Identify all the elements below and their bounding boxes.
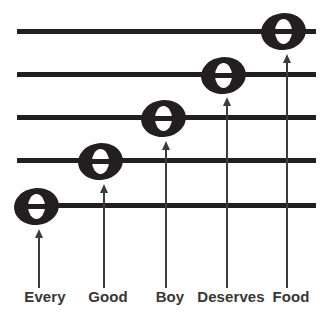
note-head-good: [78, 143, 123, 180]
note-line-overlay: [151, 116, 177, 121]
label-every: Every: [24, 288, 65, 305]
note-line-overlay: [88, 159, 114, 164]
note-line-overlay: [271, 29, 297, 34]
up-arrow-head-icon: [223, 97, 231, 106]
note-head-boy: [141, 100, 186, 137]
staff-line-2: [17, 72, 316, 77]
up-arrow-icon: [103, 192, 105, 288]
label-good: Good: [88, 288, 128, 305]
up-arrow-icon: [226, 105, 228, 288]
up-arrow-icon: [38, 237, 40, 288]
up-arrow-icon: [286, 62, 288, 288]
note-line-overlay: [211, 73, 237, 78]
staff-mnemonic-diagram: Every Good Boy Deserves Food: [0, 0, 331, 322]
note-head-every: [14, 188, 59, 225]
up-arrow-head-icon: [35, 229, 43, 238]
label-food: Food: [272, 288, 309, 305]
up-arrow-head-icon: [100, 184, 108, 193]
up-arrow-icon: [165, 149, 167, 288]
note-line-overlay: [24, 204, 50, 209]
up-arrow-head-icon: [283, 54, 291, 63]
note-head-food: [261, 13, 306, 50]
note-head-deserves: [201, 57, 246, 94]
up-arrow-head-icon: [162, 141, 170, 150]
label-boy: Boy: [156, 288, 185, 305]
label-deserves: Deserves: [197, 288, 265, 305]
